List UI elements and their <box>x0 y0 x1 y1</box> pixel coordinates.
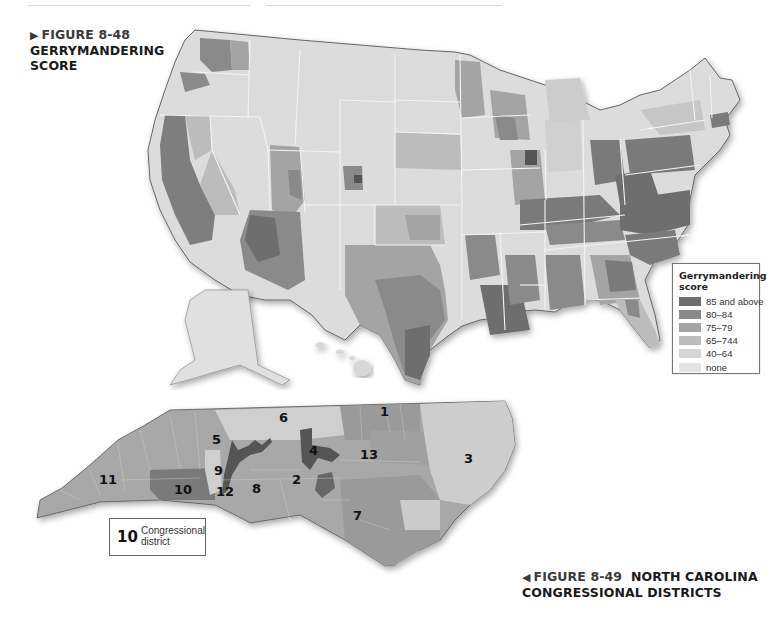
legend-label: none <box>706 362 727 373</box>
district-label-7: 7 <box>353 508 362 523</box>
key-text-line2: district <box>141 536 205 547</box>
legend-swatch <box>679 336 701 345</box>
figure-title-line2: CONGRESSIONAL DISTRICTS <box>522 585 758 600</box>
district-label-9: 9 <box>214 463 223 478</box>
legend-swatch <box>679 363 701 372</box>
legend-item: none <box>679 361 727 373</box>
district-label-13: 13 <box>360 447 378 462</box>
district-label-8: 8 <box>252 481 261 496</box>
legend-title: Gerrymandering score <box>679 270 759 292</box>
legend-item: 40–64 <box>679 347 732 359</box>
district-label-10: 10 <box>174 482 192 497</box>
legend-swatch <box>679 310 701 319</box>
legend-swatch <box>679 349 701 358</box>
district-label-2: 2 <box>292 472 301 487</box>
hawaii <box>315 342 371 376</box>
legend-item: 75–79 <box>679 321 732 333</box>
legend-item: 65–744 <box>679 334 738 346</box>
legend-box: Gerrymandering score 85 and above 80–84 … <box>672 263 760 374</box>
district-label-6: 6 <box>279 410 288 425</box>
district-label-3: 3 <box>464 451 473 466</box>
figure-number: FIGURE 8-49 <box>534 569 623 584</box>
legend-item: 85 and above <box>679 295 764 307</box>
legend-swatch <box>679 323 701 332</box>
district-label-1: 1 <box>380 404 389 419</box>
legend-swatch <box>679 297 701 306</box>
legend-label: 80–84 <box>706 309 732 320</box>
figure-49-caption: ◀FIGURE 8-49 NORTH CAROLINA CONGRESSIONA… <box>522 569 758 600</box>
figure-title-line1: NORTH CAROLINA <box>631 569 758 584</box>
key-text: Congressional district <box>141 525 205 547</box>
district-label-12: 12 <box>216 484 234 499</box>
key-number: 10 <box>117 528 138 546</box>
figure-marker-icon: ◀ <box>522 571 531 584</box>
legend-label: 40–64 <box>706 348 732 359</box>
legend-label: 65–744 <box>706 335 738 346</box>
legend-label: 85 and above <box>706 296 764 307</box>
district-label-11: 11 <box>99 472 117 487</box>
congressional-district-key: 10 Congressional district <box>109 518 206 556</box>
key-text-line1: Congressional <box>141 525 205 536</box>
legend-item: 80–84 <box>679 308 732 320</box>
district-label-4: 4 <box>309 443 318 458</box>
legend-label: 75–79 <box>706 322 732 333</box>
alaska <box>170 290 290 385</box>
district-label-5: 5 <box>212 432 221 447</box>
